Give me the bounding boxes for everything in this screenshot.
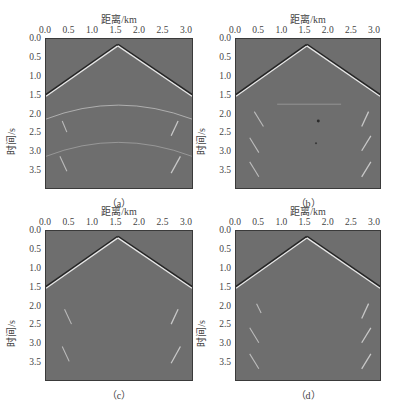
y-tick-label: 0.5 (209, 52, 231, 62)
x-axis-label: 距离/km (283, 203, 333, 218)
y-tick-label: 2.0 (209, 301, 231, 311)
x-tick-label: 2.0 (133, 217, 145, 227)
y-tick-label: 2.5 (209, 319, 231, 329)
x-tick-label: 2.0 (322, 25, 334, 35)
x-axis-label: 距离/km (94, 11, 144, 26)
y-tick-label: 1.5 (209, 90, 231, 100)
panel-caption: （d） (296, 387, 321, 402)
y-tick-label: 1.5 (19, 90, 41, 100)
y-tick-label: 0.0 (209, 33, 231, 43)
seismic-plot-c (45, 230, 193, 381)
y-tick-label: 1.0 (209, 263, 231, 273)
x-tick-label: 2.5 (157, 25, 169, 35)
x-tick-label: 1.0 (275, 25, 287, 35)
y-tick-label: 0.5 (19, 244, 41, 254)
y-axis-label: 时间/s (193, 128, 208, 155)
x-tick-label: 2.5 (345, 217, 357, 227)
y-tick-label: 0.5 (209, 244, 231, 254)
x-tick-label: 1.5 (299, 25, 311, 35)
y-tick-label: 3.5 (209, 357, 231, 367)
x-tick-label: 0.5 (63, 217, 75, 227)
y-tick-label: 0.0 (209, 225, 231, 235)
y-tick-label: 1.0 (19, 263, 41, 273)
y-axis-label: 时间/s (193, 320, 208, 347)
seismic-image (46, 231, 192, 380)
x-tick-label: 1.0 (86, 217, 98, 227)
y-tick-label: 1.0 (19, 71, 41, 81)
y-tick-label: 2.0 (19, 109, 41, 119)
seismic-plot-b (235, 38, 381, 189)
seismic-image (236, 231, 380, 380)
x-tick-label: 1.5 (299, 217, 311, 227)
y-tick-label: 1.5 (209, 282, 231, 292)
x-axis-label: 距离/km (94, 203, 144, 218)
panel-caption: （c） (107, 387, 131, 402)
x-tick-label: 0.5 (252, 217, 264, 227)
y-tick-label: 3.0 (19, 338, 41, 348)
x-tick-label: 0.5 (63, 25, 75, 35)
y-axis-label: 时间/s (3, 320, 18, 347)
y-tick-label: 1.5 (19, 282, 41, 292)
y-tick-label: 3.0 (209, 146, 231, 156)
y-tick-label: 3.5 (19, 357, 41, 367)
x-tick-label: 1.5 (110, 217, 122, 227)
y-tick-label: 3.5 (19, 165, 41, 175)
x-tick-label: 1.0 (86, 25, 98, 35)
y-tick-label: 2.5 (209, 127, 231, 137)
y-tick-label: 3.0 (209, 338, 231, 348)
y-tick-label: 2.0 (209, 109, 231, 119)
x-tick-label: 3.0 (180, 25, 192, 35)
y-tick-label: 2.5 (19, 319, 41, 329)
x-axis-label: 距离/km (283, 11, 333, 26)
y-tick-label: 0.5 (19, 52, 41, 62)
y-tick-label: 2.5 (19, 127, 41, 137)
seismic-plot-a (45, 38, 193, 189)
y-axis-label: 时间/s (3, 128, 18, 155)
x-tick-label: 1.0 (275, 217, 287, 227)
seismic-plot-d (235, 230, 381, 381)
y-tick-label: 3.0 (19, 146, 41, 156)
x-tick-label: 3.0 (368, 25, 380, 35)
y-tick-label: 0.0 (19, 225, 41, 235)
x-tick-label: 2.0 (133, 25, 145, 35)
x-tick-label: 2.5 (345, 25, 357, 35)
x-tick-label: 1.5 (110, 25, 122, 35)
x-tick-label: 3.0 (368, 217, 380, 227)
y-tick-label: 3.5 (209, 165, 231, 175)
seismic-image (46, 39, 192, 188)
y-tick-label: 2.0 (19, 301, 41, 311)
x-tick-label: 3.0 (180, 217, 192, 227)
x-tick-label: 2.5 (157, 217, 169, 227)
y-tick-label: 1.0 (209, 71, 231, 81)
seismic-image (236, 39, 380, 188)
x-tick-label: 0.5 (252, 25, 264, 35)
y-tick-label: 0.0 (19, 33, 41, 43)
x-tick-label: 2.0 (322, 217, 334, 227)
